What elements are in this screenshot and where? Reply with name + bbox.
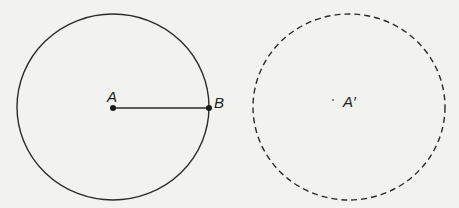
point-a bbox=[110, 105, 116, 111]
label-a-prime: A′ bbox=[342, 93, 357, 110]
label-a: A bbox=[106, 88, 117, 105]
label-b: B bbox=[214, 94, 224, 111]
image-center-mark bbox=[332, 99, 334, 101]
diagram-svg: A B A′ bbox=[0, 0, 459, 208]
point-b bbox=[206, 105, 212, 111]
diagram-canvas: A B A′ bbox=[0, 0, 459, 208]
